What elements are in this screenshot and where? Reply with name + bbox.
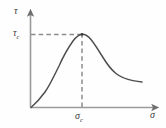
x-axis-label: σ [150, 110, 155, 120]
shear-strength-curve [31, 34, 142, 107]
y-axis-label: τ [14, 6, 18, 16]
tau-c-tick-label: τc [13, 28, 19, 41]
plot-canvas [0, 0, 166, 128]
tau-c-subscript: c [17, 33, 20, 40]
sigma-c-subscript: c [80, 116, 83, 123]
peak-point-marker [81, 33, 84, 36]
figure-container: τ σ τc σc [0, 0, 166, 128]
sigma-c-tick-label: σc [75, 111, 83, 124]
